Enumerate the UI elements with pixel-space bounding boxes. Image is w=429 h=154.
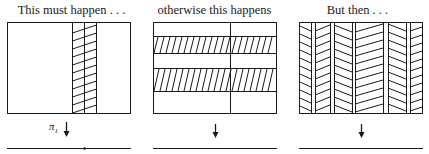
panel-must-happen: This must happen . . . π1: [0, 0, 143, 154]
chevron-hatching: [300, 24, 422, 112]
hatch-band-1: [154, 37, 272, 53]
base-point: [83, 147, 86, 150]
column-lines: [312, 23, 411, 114]
panel-but-then: But then . . .: [286, 0, 429, 154]
diagram-but-then: [286, 0, 429, 154]
hatch-band-2: [154, 69, 273, 91]
diagram-otherwise: [143, 0, 286, 154]
panel-otherwise: otherwise this happens: [143, 0, 286, 154]
projection-label: π1: [49, 120, 58, 135]
diagram-must-happen: [0, 0, 143, 154]
